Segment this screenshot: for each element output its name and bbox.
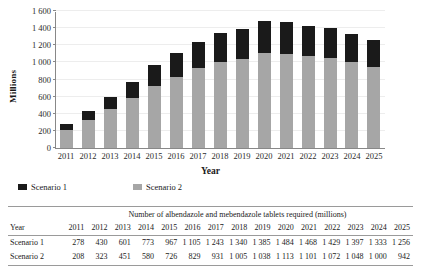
table-cell: 451 xyxy=(111,250,134,264)
bar-segment-scenario-2 xyxy=(192,68,205,148)
table-column-header: 2023 xyxy=(343,221,366,236)
table-cell: 1 429 xyxy=(320,236,343,251)
table-cell: 1 468 xyxy=(297,236,320,251)
data-table: Year 20112012201320142015201620172018201… xyxy=(8,221,413,264)
legend-swatch-icon xyxy=(18,184,27,190)
table-header: Year 20112012201320142015201620172018201… xyxy=(8,221,413,236)
table-column-header: 2020 xyxy=(273,221,296,236)
y-axis-tick-mark xyxy=(53,10,56,11)
table-cell: 829 xyxy=(180,250,203,264)
table-cell: 323 xyxy=(87,250,110,264)
bar-segment-scenario-1 xyxy=(148,65,161,86)
bar-segment-scenario-2 xyxy=(148,86,161,148)
bar-segment-scenario-1 xyxy=(367,40,380,67)
data-table-container: Number of albendazole and mebendazole ta… xyxy=(8,206,413,266)
table-cell: 1 256 xyxy=(390,236,413,251)
bar-segment-scenario-1 xyxy=(170,53,183,77)
bar-group xyxy=(104,12,117,148)
bar-segment-scenario-2 xyxy=(280,54,293,148)
bar-group xyxy=(170,12,183,148)
table-row-header-label: Year xyxy=(8,221,64,236)
bar-group xyxy=(214,12,227,148)
table-row-label: Scenario 1 xyxy=(8,236,64,251)
bar-group xyxy=(82,12,95,148)
y-axis-tick-label: 200 xyxy=(17,127,51,136)
table-cell: 1 000 xyxy=(366,250,389,264)
bar-segment-scenario-2 xyxy=(60,130,73,148)
y-axis-tick-label: 1 200 xyxy=(17,41,51,50)
table-cell: 1 243 xyxy=(204,236,227,251)
y-axis-tick-label: 1 400 xyxy=(17,24,51,33)
bar-group xyxy=(367,12,380,148)
table-cell: 1 101 xyxy=(297,250,320,264)
table-cell: 1 072 xyxy=(320,250,343,264)
x-axis-title: Year xyxy=(0,166,421,176)
table-column-header: 2024 xyxy=(366,221,389,236)
bar-segment-scenario-1 xyxy=(126,82,139,99)
table-column-header: 2021 xyxy=(297,221,320,236)
table-cell: 580 xyxy=(134,250,157,264)
bar-group xyxy=(60,12,73,148)
bar-segment-scenario-2 xyxy=(367,67,380,148)
table-column-header: 2015 xyxy=(157,221,180,236)
table-body: Scenario 12784306017739671 1051 2431 340… xyxy=(8,236,413,265)
bar-segment-scenario-2 xyxy=(170,77,183,148)
table-bottom-rule xyxy=(8,265,413,266)
y-axis-tick-label: 400 xyxy=(17,110,51,119)
table-cell: 726 xyxy=(157,250,180,264)
bar-group xyxy=(345,12,358,148)
table-column-header: 2019 xyxy=(250,221,273,236)
table-header-row: Year 20112012201320142015201620172018201… xyxy=(8,221,413,236)
table-cell: 601 xyxy=(111,236,134,251)
bar-segment-scenario-1 xyxy=(258,21,271,53)
y-axis-tick-label: 0 xyxy=(17,144,51,153)
table-row: Scenario 12784306017739671 1051 2431 340… xyxy=(8,236,413,251)
bar-series-container xyxy=(56,12,385,148)
legend-swatch-icon xyxy=(133,184,142,190)
bar-segment-scenario-1 xyxy=(82,111,95,120)
bar-group xyxy=(236,12,249,148)
legend-item: Scenario 1 xyxy=(18,182,67,192)
table-column-header: 2022 xyxy=(320,221,343,236)
table-cell: 931 xyxy=(204,250,227,264)
bar-segment-scenario-2 xyxy=(82,120,95,148)
table-cell: 1 048 xyxy=(343,250,366,264)
table-cell: 1 484 xyxy=(273,236,296,251)
table-column-header: 2013 xyxy=(111,221,134,236)
table-cell: 1 397 xyxy=(343,236,366,251)
bar-segment-scenario-1 xyxy=(214,33,227,62)
table-column-header: 2018 xyxy=(227,221,250,236)
legend-label: Scenario 2 xyxy=(146,182,182,192)
table-cell: 1 333 xyxy=(366,236,389,251)
bar-group xyxy=(126,12,139,148)
table-cell: 1 385 xyxy=(250,236,273,251)
legend-item: Scenario 2 xyxy=(133,182,182,192)
table-cell: 208 xyxy=(64,250,87,264)
bar-segment-scenario-1 xyxy=(302,26,315,57)
chart-figure: Millions 02004006008001 0001 2001 4001 6… xyxy=(0,0,421,180)
table-column-header: 2012 xyxy=(87,221,110,236)
bar-segment-scenario-1 xyxy=(280,22,293,53)
bar-segment-scenario-2 xyxy=(236,59,249,148)
x-axis-tick-label: 2025 xyxy=(359,152,389,161)
y-axis-tick-label: 1 000 xyxy=(17,58,51,67)
table-cell: 278 xyxy=(64,236,87,251)
table-column-header: 2016 xyxy=(180,221,203,236)
bar-segment-scenario-1 xyxy=(324,28,337,58)
bar-segment-scenario-2 xyxy=(345,62,358,148)
table-cell: 1 005 xyxy=(227,250,250,264)
plot-area: 02004006008001 0001 2001 4001 600 xyxy=(55,12,385,149)
table-cell: 967 xyxy=(157,236,180,251)
y-axis-tick-label: 600 xyxy=(17,93,51,102)
y-axis-tick-label: 800 xyxy=(17,76,51,85)
bar-group xyxy=(258,12,271,148)
table-cell: 1 113 xyxy=(273,250,296,264)
table-column-header: 2025 xyxy=(390,221,413,236)
table-row: Scenario 22083234515807268299311 0051 03… xyxy=(8,250,413,264)
chart-legend: Scenario 1Scenario 2 xyxy=(0,182,421,198)
bar-segment-scenario-1 xyxy=(345,34,358,63)
bar-segment-scenario-2 xyxy=(258,53,271,148)
gridline xyxy=(56,10,385,11)
bar-segment-scenario-2 xyxy=(104,109,117,148)
bar-segment-scenario-2 xyxy=(126,98,139,148)
